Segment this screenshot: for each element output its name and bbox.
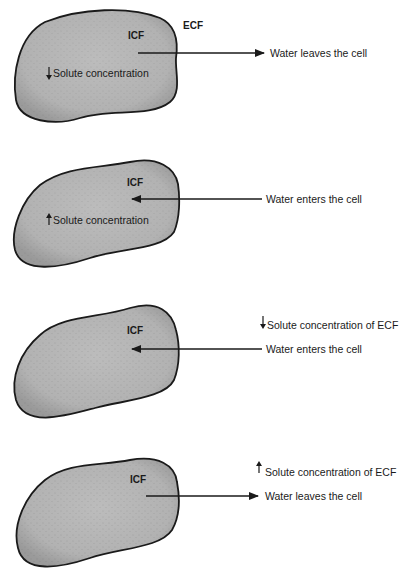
water-label: Water enters the cell [266,193,362,205]
panel-4: ICF Water leaves the cell Solute concent… [17,459,397,567]
inner-solute-label: Solute concentration [53,214,149,226]
ecf-label: ECF [183,20,203,31]
panel-2: ICF Water enters the cell Solute concent… [14,160,362,266]
ecf-solute-label: Solute concentration of ECF [265,466,396,478]
ecf-solute-label: Solute concentration of ECF [267,319,398,331]
panel-3: ICF Water enters the cell Solute concent… [14,305,398,417]
icf-label: ICF [127,325,143,336]
water-label: Water leaves the cell [265,490,362,502]
icf-label: ICF [127,177,143,188]
water-label: Water enters the cell [266,343,362,355]
water-label: Water leaves the cell [270,47,367,59]
panel-1: ICF ECF Water leaves the cell Solute con… [15,10,367,122]
osmosis-diagram: ICF ECF Water leaves the cell Solute con… [0,0,415,577]
inner-solute-label: Solute concentration [53,67,149,79]
icf-label: ICF [130,474,146,485]
arrow-up-icon [256,461,262,473]
arrow-down-icon [260,316,266,329]
icf-label: ICF [128,30,144,41]
